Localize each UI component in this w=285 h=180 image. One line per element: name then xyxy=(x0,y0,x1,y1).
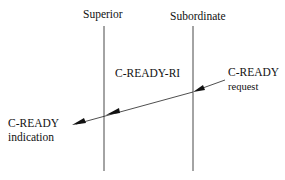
indication-primitive-label: C-READY xyxy=(8,118,59,130)
indication-arrowhead-icon xyxy=(72,118,86,125)
sequence-diagram: Superior Subordinate C-READY-RI C-READY … xyxy=(0,0,285,180)
subordinate-label: Subordinate xyxy=(170,11,226,23)
c-ready-ri-message-line xyxy=(76,92,193,124)
request-primitive-sublabel: request xyxy=(228,82,258,93)
message-name-label: C-READY-RI xyxy=(115,68,180,80)
request-arrowhead-icon xyxy=(193,85,205,92)
indication-primitive-sublabel: indication xyxy=(8,132,54,144)
superior-label: Superior xyxy=(83,9,123,21)
request-primitive-label: C-READY xyxy=(228,67,279,79)
mid-arrowhead-icon xyxy=(106,108,120,115)
